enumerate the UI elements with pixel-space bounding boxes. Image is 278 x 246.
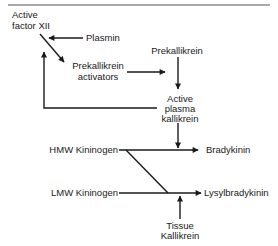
node-active-plasma-kallikrein: Active plasma kallikrein (162, 94, 199, 124)
line-hmw-to-lysylbradykinin (126, 150, 168, 193)
node-label-line: factor XII (12, 21, 50, 31)
node-tissue-kallikrein: Tissue Kallikrein (161, 221, 200, 241)
node-lmw-kininogen: LMW Kininogen (51, 188, 118, 198)
node-plasmin: Plasmin (86, 33, 120, 43)
node-label-line: Prekallikrein (72, 61, 124, 71)
node-bradykinin: Bradykinin (206, 145, 250, 155)
node-prekallikrein: Prekallikrein (151, 46, 203, 56)
node-label-line: Kallikrein (161, 231, 200, 241)
node-prekallikrein-activators: Prekallikrein activators (72, 61, 124, 82)
node-active-factor-xii: Active factor XII (12, 10, 50, 31)
diagram-lines (0, 0, 278, 246)
node-label-line: kallikrein (162, 114, 199, 124)
node-label-line: Active (12, 10, 50, 20)
kinin-pathway-diagram: Active factor XII Plasmin Prekallikrein … (0, 0, 278, 246)
node-hmw-kininogen: HMW Kininogen (49, 145, 118, 155)
node-lysylbradykinin: Lysylbradykinin (204, 188, 269, 198)
node-label-line: activators (72, 72, 124, 82)
